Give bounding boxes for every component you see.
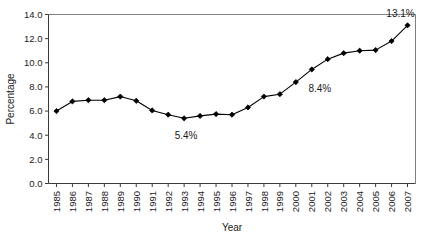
data-point-marker[interactable] <box>86 98 91 103</box>
data-point-marker[interactable] <box>373 48 378 53</box>
data-point-marker[interactable] <box>70 99 75 104</box>
x-axis-tick-label: 2001 <box>306 191 317 212</box>
x-axis-tick-label: 1989 <box>115 191 126 212</box>
data-point-marker[interactable] <box>102 98 107 103</box>
series-line-percentage <box>56 25 407 118</box>
x-axis-tick-label: 2005 <box>370 191 381 212</box>
y-axis-tick-label: 14.0 <box>24 9 43 20</box>
y-axis-tick-label: 0.0 <box>29 178 42 189</box>
x-axis-tick-label: 1996 <box>227 191 238 212</box>
x-axis-tick-label: 2002 <box>322 191 333 212</box>
x-axis-tick-label: 1988 <box>99 191 110 212</box>
x-axis-tick-label: 1993 <box>179 191 190 212</box>
data-point-marker[interactable] <box>357 48 362 53</box>
x-axis-tick-label: 2004 <box>354 191 365 212</box>
data-point-marker[interactable] <box>54 108 59 113</box>
y-axis-tick-label: 4.0 <box>29 130 42 141</box>
x-axis-tick-label: 2000 <box>290 191 301 212</box>
x-axis-tick-label: 2006 <box>386 191 397 212</box>
line-chart: 0.02.04.06.08.010.012.014.01985198619871… <box>0 0 429 239</box>
data-label-annotation: 8.4% <box>308 83 331 94</box>
x-axis-tick-label: 1986 <box>67 191 78 212</box>
x-axis-tick-label: 1994 <box>195 191 206 212</box>
y-axis-tick-label: 2.0 <box>29 154 42 165</box>
x-axis-tick-label: 2007 <box>402 191 413 212</box>
x-axis-tick-label: 1995 <box>211 191 222 212</box>
data-point-marker[interactable] <box>134 98 139 103</box>
x-axis-tick-label: 1991 <box>147 191 158 212</box>
x-axis-tick-label: 1999 <box>274 191 285 212</box>
data-point-marker[interactable] <box>341 51 346 56</box>
x-axis-tick-label: 1998 <box>259 191 270 212</box>
data-point-marker[interactable] <box>182 116 187 121</box>
chart-canvas: 0.02.04.06.08.010.012.014.01985198619871… <box>0 0 429 239</box>
data-point-marker[interactable] <box>118 94 123 99</box>
y-axis-tick-label: 12.0 <box>24 33 43 44</box>
data-point-marker[interactable] <box>213 111 218 116</box>
data-point-marker[interactable] <box>166 112 171 117</box>
data-point-marker[interactable] <box>150 108 155 113</box>
data-label-annotation: 5.4% <box>175 130 198 141</box>
data-point-marker[interactable] <box>197 113 202 118</box>
data-label-annotation: 13.1% <box>386 8 414 19</box>
x-axis-tick-label: 2003 <box>338 191 349 212</box>
data-point-marker[interactable] <box>229 112 234 117</box>
x-axis-tick-label: 1985 <box>51 191 62 212</box>
x-axis-tick-label: 1987 <box>83 191 94 212</box>
x-axis-tick-label: 1990 <box>131 191 142 212</box>
x-axis-tick-label: 1997 <box>243 191 254 212</box>
y-axis-tick-label: 6.0 <box>29 105 42 116</box>
y-axis-tick-label: 8.0 <box>29 81 42 92</box>
y-axis-title: Percentage <box>5 73 16 125</box>
x-axis-title: Year <box>222 222 243 233</box>
y-axis-tick-label: 10.0 <box>24 57 43 68</box>
x-axis-tick-label: 1992 <box>163 191 174 212</box>
